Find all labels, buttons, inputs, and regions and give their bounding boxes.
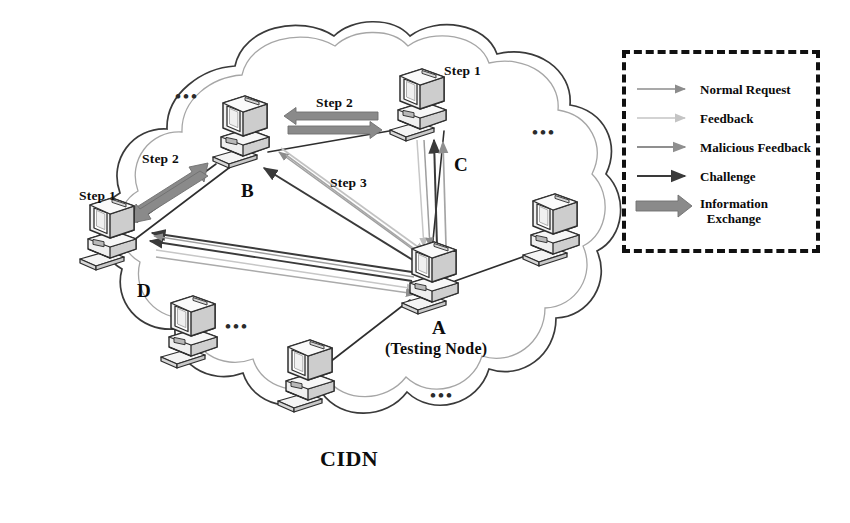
legend-label-information-exchange: Information Exchange	[700, 196, 768, 227]
legend-label-feedback: Feedback	[700, 111, 753, 126]
legend-arrows-svg	[0, 0, 850, 523]
legend-arrow-information-exchange	[636, 195, 692, 217]
diagram-canvas: B C D A (Testing Node) Step 1 Step 2 Ste…	[0, 0, 850, 523]
legend-label-malicious-feedback: Malicious Feedback	[700, 140, 811, 155]
legend-label-normal-request: Normal Request	[700, 82, 791, 97]
legend-label-challenge: Challenge	[700, 169, 756, 184]
